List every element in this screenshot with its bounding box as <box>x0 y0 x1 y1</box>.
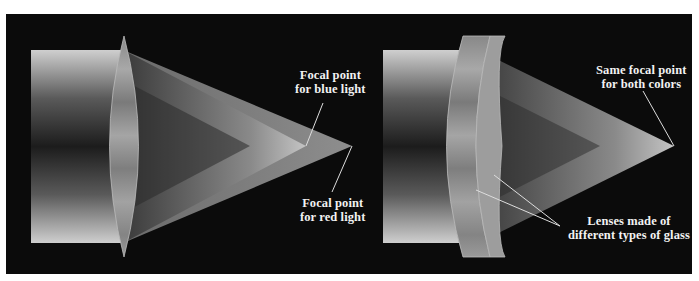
label-blue-focal: Focal point for blue light <box>295 68 366 96</box>
label-same-focal: Same focal point for both colors <box>596 63 687 91</box>
label-lenses: Lenses made of different types of glass <box>568 214 690 242</box>
label-red-focal: Focal point for red light <box>300 196 365 224</box>
